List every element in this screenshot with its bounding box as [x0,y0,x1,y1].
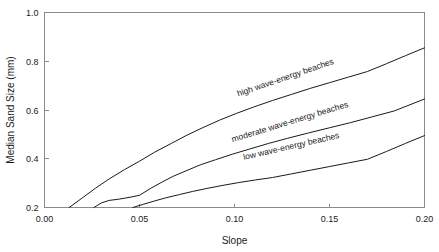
x-axis-title: Slope [222,235,248,246]
series-label-0: high wave-energy beaches [236,56,335,99]
plot-frame-rect [45,13,425,208]
chart-canvas: 0.000.050.100.150.20 0.20.40.60.81.0 hig… [0,0,439,252]
x-tick-label: 0.20 [416,214,434,224]
x-axis-tick-labels: 0.000.050.100.150.20 [36,214,434,224]
y-axis-title: Median Sand Size (mm) [5,56,16,163]
y-tick-label: 0.4 [26,154,39,164]
y-axis-ticks [45,13,49,208]
x-tick-label: 0.00 [36,214,54,224]
y-tick-label: 0.2 [26,203,39,213]
y-tick-label: 0.8 [26,57,39,67]
data-series-group [69,48,424,208]
y-tick-label: 0.6 [26,106,39,116]
x-tick-label: 0.15 [321,214,339,224]
x-tick-label: 0.10 [226,214,244,224]
x-tick-label: 0.05 [131,214,149,224]
y-tick-label: 1.0 [26,8,39,18]
chart-figure: 0.000.050.100.150.20 0.20.40.60.81.0 hig… [0,0,439,252]
x-axis-ticks [45,204,425,208]
plot-frame [45,13,425,208]
y-axis-tick-labels: 0.20.40.60.81.0 [26,8,39,213]
series-line-0 [69,48,424,208]
